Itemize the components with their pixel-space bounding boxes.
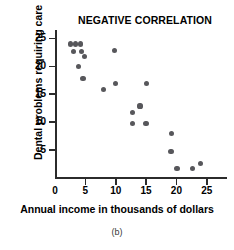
data-point xyxy=(168,149,173,154)
x-tick-label: 25 xyxy=(197,186,217,196)
data-point xyxy=(112,48,117,53)
scatter-plot-figure: NEGATIVE CORRELATION Dental problems req… xyxy=(0,0,234,250)
x-tick-label: 0 xyxy=(45,186,65,196)
data-point xyxy=(80,76,85,81)
y-tick-mark xyxy=(49,38,55,40)
data-point xyxy=(113,81,118,86)
data-point xyxy=(137,103,142,108)
x-tick-label: 20 xyxy=(166,186,186,196)
y-tick-label: 20 xyxy=(26,61,46,71)
y-tick-label: 15 xyxy=(26,89,46,99)
x-axis-title: Annual income in thousands of dollars xyxy=(0,203,234,215)
y-axis-title-wrapper: Dental problems requiring care xyxy=(18,20,34,180)
y-tick-mark xyxy=(49,149,55,151)
data-point xyxy=(76,64,81,69)
x-tick-label: 15 xyxy=(136,186,156,196)
data-point xyxy=(143,121,148,126)
data-point xyxy=(78,41,83,46)
y-tick-mark xyxy=(49,66,55,68)
y-axis-title: Dental problems requiring care xyxy=(32,8,44,160)
data-point xyxy=(82,54,87,59)
data-point xyxy=(190,166,195,171)
x-tick-label: 5 xyxy=(75,186,95,196)
data-point xyxy=(174,166,179,171)
data-point xyxy=(71,49,76,54)
data-point xyxy=(144,81,149,86)
plot-area xyxy=(55,30,225,178)
data-point xyxy=(198,161,203,166)
panel-caption: (b) xyxy=(0,227,234,237)
data-point xyxy=(101,87,106,92)
x-tick-label: 10 xyxy=(106,186,126,196)
y-tick-label: 10 xyxy=(26,117,46,127)
data-point xyxy=(79,49,84,54)
data-point xyxy=(169,131,174,136)
y-tick-mark xyxy=(49,121,55,123)
y-tick-mark xyxy=(49,93,55,95)
data-point xyxy=(130,110,135,115)
y-tick-label: 25 xyxy=(26,33,46,43)
chart-title: NEGATIVE CORRELATION xyxy=(60,14,230,26)
data-point xyxy=(130,121,135,126)
y-tick-label: 5 xyxy=(26,145,46,155)
